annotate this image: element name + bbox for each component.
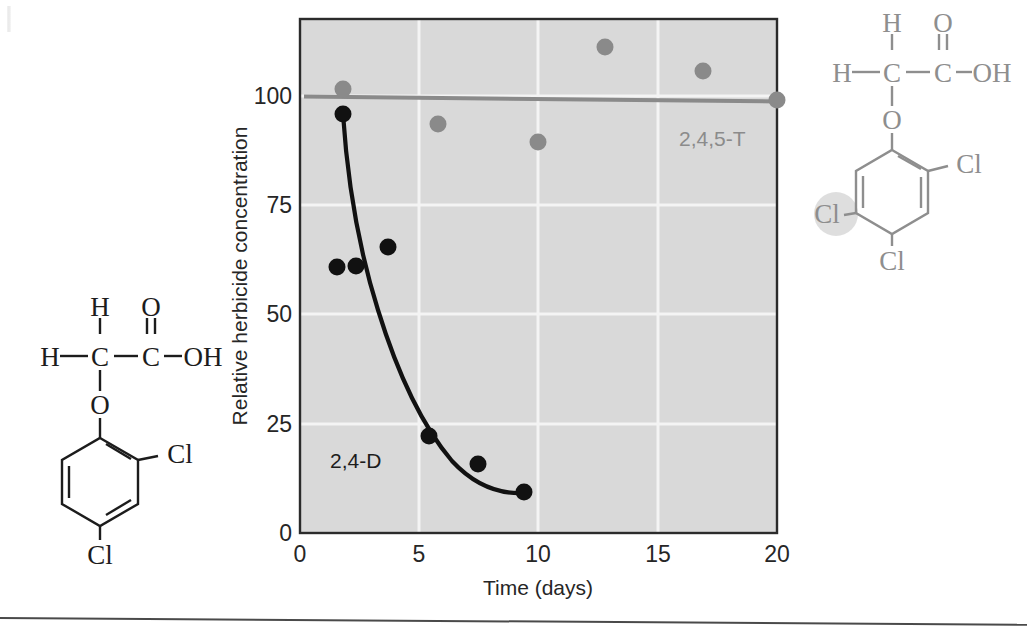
y-tick-label: 75 [266,192,292,218]
data-point-24d [380,239,397,256]
y-tick-label: 25 [266,411,292,437]
atom-label-cl-5: Cl [814,199,840,229]
ring-double-bond-3 [898,156,921,169]
x-tick-label: 15 [645,541,671,567]
atom-label-c-alpha: C [91,342,109,372]
series-label-245t: 2,4,5-T [679,127,746,150]
atom-label-o-double: O [141,292,161,322]
atom-label-c-carboxyl: C [934,58,952,88]
atom-label-cl-2: Cl [167,439,193,469]
ring-double-bond-2 [106,444,131,459]
bond-ring-cl2 [138,456,158,460]
data-point-24d [516,484,533,501]
atom-label-cl-2: Cl [956,149,982,179]
benzene-ring-245t [856,150,928,234]
structure-svg-24d: H H C C O OH O Cl Cl [28,296,228,568]
substituent-bonds-245t [844,166,948,246]
data-point-24d [335,106,352,123]
y-tick-label: 50 [266,301,292,327]
data-point-24d [470,456,487,473]
data-point-24d [421,428,438,445]
chemical-structure-24d: H H C C O OH O Cl Cl [28,296,228,568]
x-axis-ticks: 0 5 10 15 20 [294,541,790,567]
data-point-245t [335,81,352,98]
x-axis-title: Time (days) [483,576,593,599]
page-bottom-rule-line [0,617,1027,626]
atom-label-oh: OH [973,58,1012,88]
atom-label-h-left: H [40,342,60,372]
x-tick-label: 5 [413,541,426,567]
data-point-24d [329,259,346,276]
atom-label-h-left: H [832,58,852,88]
x-tick-label: 0 [294,541,307,567]
bonds-245t [852,34,972,150]
data-point-245t [597,39,614,56]
y-tick-label: 100 [254,83,292,109]
x-tick-label: 20 [764,541,790,567]
atom-label-o-ether: O [882,105,902,135]
y-tick-label: 0 [279,520,292,546]
bond-ring-cl2 [928,166,948,171]
series-label-24d: 2,4-D [330,449,381,472]
data-point-245t [530,134,547,151]
figure-root: 2,4-D 2,4,5-T 100 75 50 25 0 0 5 10 15 2… [0,0,1027,641]
data-point-245t [769,92,786,109]
benzene-ring-24d [62,438,138,526]
data-point-24d [348,258,365,275]
ring-hexagon [856,150,928,234]
y-axis-ticks: 100 75 50 25 0 [254,83,292,546]
ring-hexagon [62,438,138,526]
y-axis-title: Relative herbicide concentration [228,127,251,426]
data-point-245t [695,63,712,80]
atom-label-o-ether: O [90,390,110,420]
atom-label-cl-4: Cl [879,246,905,276]
bonds-24d [60,318,182,438]
atom-label-c-alpha: C [883,58,901,88]
atom-label-h-top: H [882,8,902,38]
atom-label-oh: OH [184,342,223,372]
page-bottom-rule [0,611,1027,625]
x-tick-label: 10 [525,541,551,567]
atom-label-h-top: H [90,292,110,322]
atom-label-cl-4: Cl [87,540,113,570]
substituent-bonds-24d [100,456,158,540]
atom-label-c-carboxyl: C [142,342,160,372]
structure-svg-245t: H H C C O OH O Cl Cl Cl [800,14,1010,280]
data-point-245t [430,116,447,133]
ring-double-bond-3 [106,500,131,515]
chemical-structure-245t: H H C C O OH O Cl Cl Cl [800,14,1010,280]
atom-label-o-double: O [933,8,953,38]
